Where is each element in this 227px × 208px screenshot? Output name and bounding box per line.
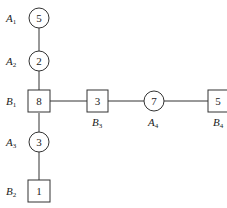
node-label-a2: A2 [5, 55, 17, 69]
node-label-b2: B2 [6, 185, 17, 199]
node-value: 8 [36, 95, 42, 107]
node-value: 3 [95, 95, 101, 107]
node-value: 5 [36, 12, 42, 24]
node-a4: 7 [144, 91, 164, 111]
node-a3: 3 [29, 132, 49, 152]
node-b1: 8 [28, 90, 50, 112]
node-label-b1: B1 [6, 95, 17, 109]
node-label-b3: B3 [92, 116, 103, 130]
node-label-a3: A3 [5, 136, 17, 150]
node-b2: 1 [28, 180, 50, 202]
node-a2: 2 [29, 51, 49, 71]
node-value: 5 [215, 95, 221, 107]
node-label-a4: A4 [147, 116, 159, 130]
node-label-b4: B4 [213, 116, 224, 130]
tree-diagram: 5 A1 2 A2 8 B1 3 A3 1 B2 3 B3 7 A4 5 B4 [0, 0, 227, 208]
node-value: 7 [151, 95, 157, 107]
node-value: 3 [36, 136, 42, 148]
node-value: 2 [36, 55, 42, 67]
node-a1: 5 [29, 8, 49, 28]
node-b4: 5 [208, 90, 227, 112]
node-label-a1: A1 [5, 12, 17, 26]
node-value: 1 [36, 185, 42, 197]
node-b3: 3 [87, 90, 108, 112]
